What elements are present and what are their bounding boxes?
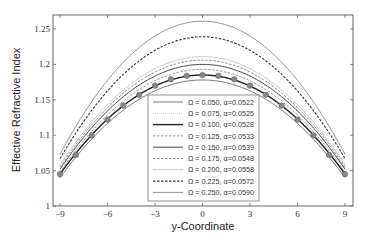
data-marker xyxy=(105,117,111,123)
data-marker xyxy=(136,92,142,98)
data-marker xyxy=(57,171,63,177)
legend: Ω = 0.050, α=0.0522Ω = 0.075, α=0.0525Ω … xyxy=(148,95,259,201)
data-marker xyxy=(342,171,348,177)
legend-label: Ω = 0.050, α=0.0522 xyxy=(188,98,254,107)
data-marker xyxy=(200,72,206,78)
legend-label: Ω = 0.125, α=0.0533 xyxy=(188,132,254,141)
y-axis-label: Effective Refractive Index xyxy=(10,47,22,172)
data-marker xyxy=(121,103,127,109)
x-tick-label: −3 xyxy=(150,209,160,219)
x-tick-label: 9 xyxy=(343,209,348,219)
x-tick-label: −9 xyxy=(55,209,65,219)
x-tick-label: 0 xyxy=(200,209,205,219)
data-marker xyxy=(263,92,269,98)
data-marker xyxy=(73,152,79,158)
legend-label: Ω = 0.225, α=0.0572 xyxy=(188,177,254,186)
x-tick-label: 3 xyxy=(248,209,253,219)
line-chart: −9−6−30369 11.051.11.151.21.25 y-Coordin… xyxy=(0,0,370,242)
data-marker xyxy=(326,152,332,158)
x-tick-label: 6 xyxy=(295,209,300,219)
y-tick-label: 1.25 xyxy=(34,24,50,34)
data-marker xyxy=(168,76,174,82)
y-tick-label: 1.05 xyxy=(34,166,50,176)
data-marker xyxy=(216,73,222,79)
data-marker xyxy=(311,132,317,138)
data-marker xyxy=(89,132,95,138)
data-marker xyxy=(279,103,285,109)
legend-label: Ω = 0.200, α=0.0558 xyxy=(188,165,254,174)
y-tick-label: 1.1 xyxy=(39,130,50,140)
y-tick-label: 1 xyxy=(46,201,51,211)
y-tick-label: 1.15 xyxy=(34,95,50,105)
legend-label: Ω = 0.150, α=0.0539 xyxy=(188,143,254,152)
data-marker xyxy=(184,73,190,79)
data-marker xyxy=(152,83,158,89)
legend-label: Ω = 0.075, α=0.0525 xyxy=(188,109,254,118)
x-tick-label: −6 xyxy=(103,209,113,219)
legend-label: Ω = 0.100, α=0.0528 xyxy=(188,120,254,129)
data-marker xyxy=(247,83,253,89)
data-marker xyxy=(231,76,237,82)
legend-label: Ω = 0.250, α=0.0590 xyxy=(188,188,254,197)
data-marker xyxy=(295,117,301,123)
y-tick-label: 1.2 xyxy=(39,59,50,69)
x-axis-label: y-Coordinate xyxy=(172,220,235,232)
legend-label: Ω = 0.175, α=0.0548 xyxy=(188,154,254,163)
